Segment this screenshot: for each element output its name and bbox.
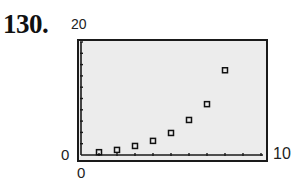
- scatter-plot: [0, 0, 296, 188]
- calculator-screen: [78, 40, 267, 161]
